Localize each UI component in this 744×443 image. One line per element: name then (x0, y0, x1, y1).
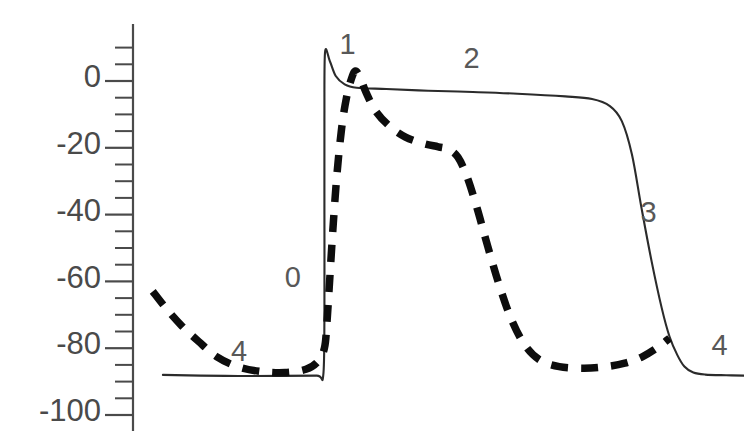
dashed-curve (153, 71, 670, 373)
y-tick-label: -60 (56, 260, 101, 295)
curve-label-4: 4 (711, 329, 727, 361)
y-tick-label: -80 (56, 326, 101, 361)
y-tick-label: -40 (56, 193, 101, 228)
curve-label-2: 2 (464, 42, 480, 74)
solid-curve (163, 49, 744, 380)
chart-svg: 0-20-40-60-80-100 012344 (0, 0, 744, 443)
y-axis-label-group: 0-20-40-60-80-100 (39, 59, 101, 428)
chart-figure: 0-20-40-60-80-100 012344 (0, 0, 744, 443)
curve-annotation-group: 012344 (231, 28, 728, 367)
y-tick-label: 0 (84, 59, 101, 94)
curve-label-0: 0 (285, 261, 301, 293)
y-tick-label: -20 (56, 126, 101, 161)
y-tick-label: -100 (39, 393, 101, 428)
curve-label-1: 1 (340, 28, 356, 60)
y-axis-tick-group (105, 48, 133, 415)
curve-label-3: 3 (641, 196, 657, 228)
curve-label-4: 4 (231, 335, 247, 367)
